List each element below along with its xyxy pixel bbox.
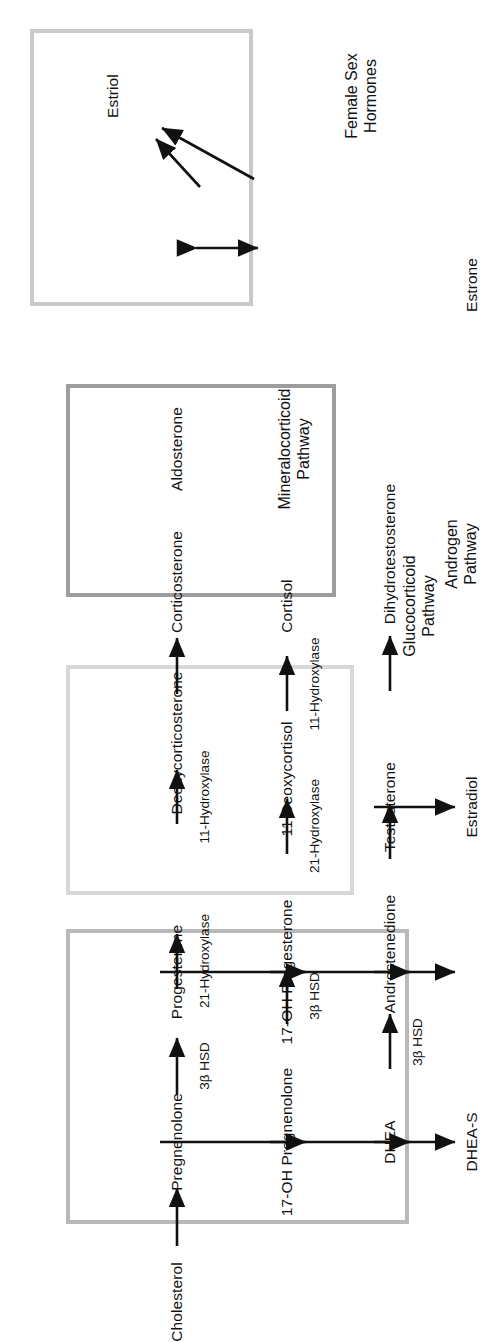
- caption-androgen-pathway: Androgen Pathway: [443, 519, 481, 588]
- node-dhea: DHEA: [382, 1120, 398, 1163]
- node-cholesterol: Cholesterol: [169, 1262, 185, 1342]
- node-estrone: Estrone: [464, 258, 480, 312]
- node-17oh-progesterone: 17-OH Progesterone: [279, 900, 295, 1045]
- caption-female-sex-hormones: Female Sex Hormones: [343, 53, 381, 138]
- enzyme-21-hydroxylase-gluco: 21-Hydroxylase: [308, 779, 322, 873]
- node-11-deoxycortisol: 11 Deoxycortisol: [279, 721, 295, 836]
- node-testosterone: Testosterone: [382, 762, 398, 852]
- enzyme-3b-hsd-gluco: 3β HSD: [308, 972, 322, 1020]
- node-corticosterone: Corticosterone: [169, 531, 185, 633]
- node-dihydrotestosterone: Dihydrotestosterone: [382, 484, 398, 625]
- pathway-box-mineralocorticoid: [66, 929, 409, 1224]
- node-androstenedione: Androstenedione: [382, 895, 398, 1014]
- enzyme-3b-hsd-mineralo: 3β HSD: [198, 1042, 212, 1090]
- node-pregnenolone: Pregnenolone: [169, 1093, 185, 1191]
- node-aldosterone: Aldosterone: [169, 407, 185, 491]
- caption-glucocorticoid-pathway: Glucocorticoid Pathway: [401, 555, 439, 656]
- node-progesterone: Progesterone: [169, 925, 185, 1019]
- pathway-box-female: [30, 29, 253, 306]
- enzyme-11-hydroxylase-mineralo: 11-Hydroxylase: [198, 751, 212, 844]
- caption-mineralocorticoid-pathway: Mineralocorticoid Pathway: [276, 389, 314, 510]
- node-estriol: Estriol: [105, 74, 121, 118]
- node-17oh-pregnenolone: 17-OH Pregnenolone: [279, 1068, 295, 1216]
- enzyme-11-hydroxylase-gluco: 11-Hydroxylase: [308, 638, 322, 731]
- node-deoxycorticosterone: Deoxycorticosterone: [169, 671, 185, 814]
- node-cortisol: Cortisol: [279, 579, 295, 632]
- enzyme-3b-hsd-andro: 3β HSD: [411, 1018, 425, 1066]
- enzyme-21-hydroxylase-mineralo: 21-Hydroxylase: [198, 914, 212, 1008]
- node-estradiol: Estradiol: [464, 776, 480, 837]
- node-dhea-s: DHEA-S: [464, 1112, 480, 1171]
